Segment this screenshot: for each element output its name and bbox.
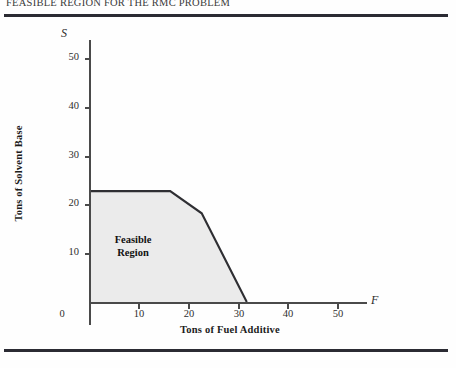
y-tick-label-10: 10 — [45, 246, 79, 257]
origin-label: 0 — [54, 308, 70, 319]
y-tick-40 — [85, 107, 91, 109]
x-tick-label-20: 20 — [172, 308, 206, 319]
y-axis-line — [89, 40, 91, 325]
y-tick-label-50: 50 — [45, 51, 79, 62]
y-tick-30 — [85, 156, 91, 158]
feasible-region-label: Feasible Region — [98, 234, 168, 259]
feasible-region-shape — [0, 18, 456, 348]
y-axis-symbol: S — [61, 26, 67, 41]
y-tick-label-30: 30 — [45, 149, 79, 160]
figure-title: FEASIBLE REGION FOR THE RMC PROBLEM — [6, 0, 230, 8]
x-axis-symbol: F — [371, 293, 378, 308]
x-tick-label-40: 40 — [271, 308, 305, 319]
figure-page: FEASIBLE REGION FOR THE RMC PROBLEM 50 4… — [0, 0, 456, 368]
feasible-region-label-line2: Region — [117, 247, 149, 258]
y-tick-50 — [85, 58, 91, 60]
y-axis-title: Tons of Solvent Base — [13, 109, 24, 239]
y-tick-label-20: 20 — [45, 197, 79, 208]
x-axis-line — [89, 302, 367, 304]
x-axis-title: Tons of Fuel Additive — [120, 324, 340, 335]
plot-area: 50 40 30 20 10 0 10 20 30 40 50 S F Tons… — [0, 18, 456, 348]
top-rule — [4, 14, 448, 17]
x-tick-label-50: 50 — [321, 308, 355, 319]
y-tick-label-40: 40 — [45, 100, 79, 111]
x-tick-label-30: 30 — [222, 308, 256, 319]
x-tick-label-10: 10 — [122, 308, 156, 319]
bottom-rule — [4, 349, 448, 352]
feasible-region-label-line1: Feasible — [115, 234, 152, 245]
y-tick-10 — [85, 253, 91, 255]
y-tick-20 — [85, 204, 91, 206]
